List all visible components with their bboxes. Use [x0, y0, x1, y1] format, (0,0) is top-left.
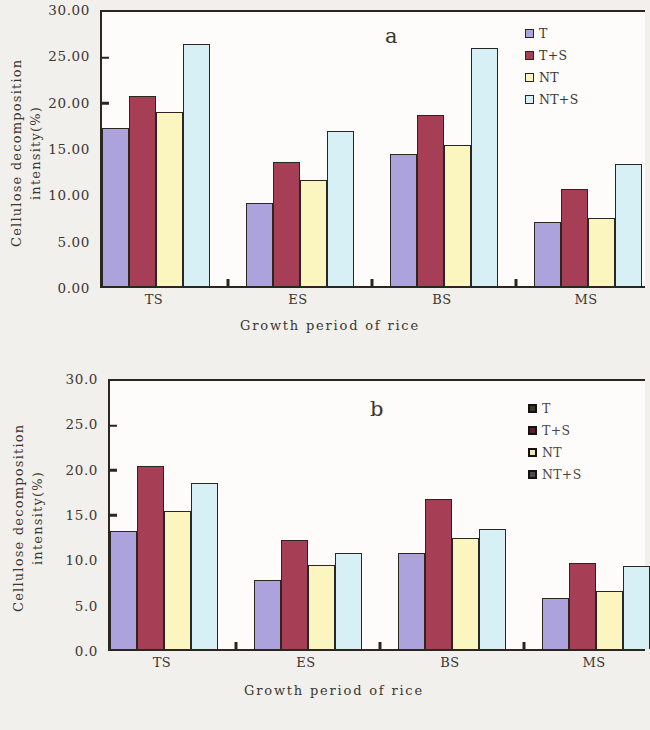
x-axis-category-label: BS [388, 292, 496, 307]
legend-item: T+S [528, 423, 582, 438]
legend-label: NT [539, 70, 559, 85]
y-axis-tick-label: 10.00 [48, 187, 90, 203]
bar [390, 154, 417, 286]
bar [561, 189, 588, 286]
bar [615, 164, 642, 286]
x-axis-category-labels-a: TSESBSMS [100, 292, 645, 307]
bar [156, 112, 183, 286]
panel-letter-b: b [370, 397, 383, 421]
y-axis-tick-label: 5.0 [75, 598, 98, 614]
bar [542, 598, 569, 649]
x-axis-category-labels-b: TSESBSMS [108, 655, 645, 670]
bar-group [254, 381, 362, 649]
bar [254, 580, 281, 649]
bar-group [246, 12, 354, 286]
legend-item: NT [525, 70, 579, 85]
legend-label: T [542, 401, 551, 416]
legend-label: NT [542, 445, 562, 460]
category-label-spacer [352, 292, 388, 307]
bar [398, 553, 425, 649]
x-axis-title-a: Growth period of rice [100, 318, 560, 333]
x-axis-category-label: ES [244, 292, 352, 307]
bar [137, 466, 164, 649]
group-separator [354, 12, 390, 286]
bar [479, 529, 506, 649]
y-axis-tick-labels-a: 30.0025.0020.0015.0010.005.000.00 [28, 10, 90, 288]
x-axis-category-label: TS [100, 292, 208, 307]
legend-label: T+S [539, 48, 567, 63]
legend-swatch-icon [528, 404, 537, 413]
y-axis-tick-label: 25.00 [48, 48, 90, 64]
legend-item: T [525, 26, 579, 41]
bar [471, 48, 498, 286]
bar [327, 131, 354, 286]
legend-swatch-icon [525, 73, 534, 82]
legend-swatch-icon [525, 51, 534, 60]
category-label-spacer [504, 655, 540, 670]
group-separator [218, 381, 254, 649]
bar [183, 44, 210, 286]
y-axis-tick-label: 20.0 [66, 462, 98, 478]
x-axis-tickmark [227, 279, 230, 286]
bar [569, 563, 596, 649]
bar [273, 162, 300, 286]
legend-b: TT+SNTNT+S [528, 401, 582, 489]
category-label-spacer [360, 655, 396, 670]
bar [102, 128, 129, 286]
x-axis-category-label: TS [108, 655, 216, 670]
legend-label: NT+S [539, 92, 579, 107]
legend-item: T+S [525, 48, 579, 63]
legend-label: NT+S [542, 467, 582, 482]
legend-item: NT+S [528, 467, 582, 482]
x-axis-tickmark [515, 279, 518, 286]
y-axis-title-a-line1: Cellulose decomposition [9, 59, 24, 247]
legend-swatch-icon [528, 470, 537, 479]
y-axis-tick-labels-b: 30.025.020.015.010.05.00.0 [36, 379, 98, 651]
legend-label: T [539, 26, 548, 41]
legend-item: NT [528, 445, 582, 460]
figure-panel-a: Cellulose decomposition intensity(%) 30.… [0, 0, 630, 365]
y-axis-tick-label: 15.0 [66, 507, 98, 523]
y-axis-tick-label: 15.00 [48, 141, 90, 157]
bar [300, 180, 327, 286]
category-label-spacer [496, 292, 532, 307]
group-separator [362, 381, 398, 649]
legend-swatch-icon [528, 448, 537, 457]
bar [191, 483, 218, 649]
legend-label: T+S [542, 423, 570, 438]
bar [596, 591, 623, 649]
bar [623, 566, 650, 649]
bar [444, 145, 471, 286]
group-separator [210, 12, 246, 286]
bar-group [390, 12, 498, 286]
bar [417, 115, 444, 286]
panel-letter-a: a [385, 24, 398, 48]
legend-item: T [528, 401, 582, 416]
bar-group [398, 381, 506, 649]
legend-item: NT+S [525, 92, 579, 107]
y-axis-tick-label: 0.00 [58, 280, 90, 296]
bar [308, 565, 335, 649]
category-label-spacer [208, 292, 244, 307]
legend-swatch-icon [525, 29, 534, 38]
x-axis-category-label: ES [252, 655, 360, 670]
bar [129, 96, 156, 286]
x-axis-category-label: BS [396, 655, 504, 670]
legend-swatch-icon [528, 426, 537, 435]
y-axis-tick-label: 25.0 [66, 416, 98, 432]
figure-panel-b: Cellulose decomposition intensity(%) 30.… [0, 365, 630, 730]
x-axis-category-label: MS [532, 292, 640, 307]
y-axis-tick-label: 20.00 [48, 95, 90, 111]
y-axis-tick-label: 10.0 [66, 552, 98, 568]
bar [335, 553, 362, 649]
bar [452, 538, 479, 649]
x-axis-tickmark [371, 279, 374, 286]
bar [246, 203, 273, 286]
y-axis-tick-label: 30.00 [48, 2, 90, 18]
y-axis-tick-label: 0.0 [75, 643, 98, 659]
bar [534, 222, 561, 286]
bar [164, 511, 191, 649]
legend-swatch-icon [525, 95, 534, 104]
x-axis-title-b: Growth period of rice [108, 683, 560, 698]
y-axis-tick-label: 5.00 [58, 234, 90, 250]
